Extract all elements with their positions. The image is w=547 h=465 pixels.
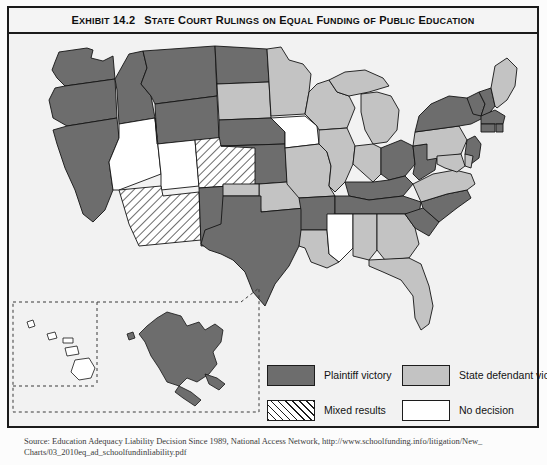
exhibit-number: EXHIBIT 14.2 [72,14,136,26]
map-legend: Plaintiff victory State defendant victor… [267,362,537,432]
us-choropleth-map: Plaintiff victory State defendant victor… [9,34,537,426]
exhibit-title-bar: EXHIBIT 14.2STATE COURT RULINGS oN EQUAL… [9,8,537,34]
state-HI-bigisland [71,358,95,380]
state-OH [381,140,415,180]
legend-row-2: Mixed results No decision [267,397,537,423]
state-AK-aleutian-1 [175,386,201,406]
legend-swatch-mixed-results [267,400,315,421]
legend-label-state-defendant-victory: State defendant victory [459,369,547,381]
state-WY [155,96,219,144]
legend-row-1: Plaintiff victory State defendant victor… [267,362,537,388]
state-ND [215,46,269,84]
source-line-1: Source: Education Adequacy Liability Dec… [24,436,482,446]
state-AK [139,312,223,386]
exhibit-page: EXHIBIT 14.2STATE COURT RULINGS oN EQUAL… [0,0,547,465]
exhibit-title: STATE COURT RULINGS oN EQUAL FUNDING oF … [144,14,474,26]
state-HI-maui [65,346,79,356]
inset-border-alaska [13,288,259,412]
legend-item-state-defendant-victory: State defendant victory [402,365,537,386]
state-MS [327,214,353,262]
state-FL [369,258,433,330]
legend-item-plaintiff-victory: Plaintiff victory [267,365,402,386]
legend-label-plaintiff-victory: Plaintiff victory [324,369,392,381]
state-ME [491,58,517,108]
legend-swatch-no-decision [402,400,450,421]
exhibit-panel: EXHIBIT 14.2STATE COURT RULINGS oN EQUAL… [7,6,539,428]
source-note: Source: Education Adequacy Liability Dec… [24,436,524,457]
legend-item-mixed-results: Mixed results [267,400,402,421]
state-OR [49,79,117,126]
state-AZ [119,186,201,246]
state-DE [465,154,473,168]
legend-label-no-decision: No decision [459,404,514,416]
state-HI-molokai [63,338,73,343]
state-MD [437,154,465,172]
state-SD [217,82,271,120]
state-MI-upper [329,70,389,96]
state-AL [353,214,377,260]
state-IN [353,144,381,182]
state-CA [53,118,119,222]
state-HI-oahu [47,332,57,340]
state-HI-kauai [27,320,35,328]
state-AK-island [127,332,135,340]
page-title: EXHIBIT 14.2STATE COURT RULINGS oN EQUAL… [72,14,475,26]
source-line-2: Charts/03_2010eq_ad_schoolfundinliabilit… [24,447,524,458]
legend-label-mixed-results: Mixed results [324,404,386,416]
state-OK-panhandle [223,184,259,196]
legend-item-no-decision: No decision [402,400,537,421]
state-MT [141,46,217,104]
state-AK-aleutian-2 [205,374,225,390]
state-TN [335,196,421,214]
state-CT [481,124,495,132]
state-MN [267,47,311,116]
legend-swatch-state-defendant-victory [402,365,450,386]
state-MI-lower [361,92,399,144]
legend-swatch-plaintiff-victory [267,365,315,386]
state-RI [496,124,503,132]
